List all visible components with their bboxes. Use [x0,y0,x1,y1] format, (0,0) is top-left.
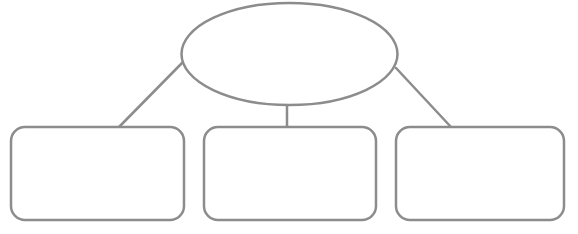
connector-line-3 [396,68,451,127]
child-node-label-3 [396,127,564,220]
child-node-label-2 [204,127,376,220]
diagram-canvas [0,0,578,234]
root-node-label [182,3,398,105]
child-node-label-1 [11,127,184,220]
connector-line-1 [119,62,183,127]
